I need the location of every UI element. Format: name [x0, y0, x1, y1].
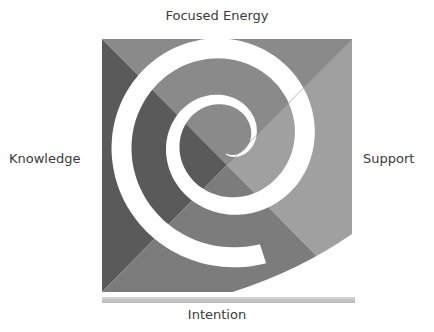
label-support: Support [363, 151, 414, 166]
label-knowledge: Knowledge [9, 151, 80, 166]
label-intention: Intention [0, 307, 434, 322]
quadrant-square [102, 38, 360, 300]
label-focused-energy: Focused Energy [0, 8, 434, 23]
spiral-diagram [0, 0, 434, 332]
base-bar [102, 297, 355, 303]
